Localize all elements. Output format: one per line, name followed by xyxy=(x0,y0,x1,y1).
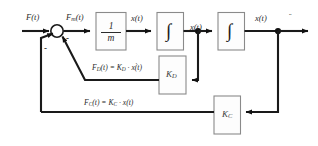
equation-spring-force: FC(t) = KC · x(t) xyxy=(84,99,133,108)
label-velocity: .x(t) xyxy=(190,23,318,32)
eq-damping-rhs: . · x(t) xyxy=(126,63,142,72)
label-net-force-suffix: (t) xyxy=(76,12,84,22)
label-velocity-base: x(t) xyxy=(190,22,202,32)
eq-damping-tail: · x(t) xyxy=(126,63,142,72)
label-acceleration-base: x(t) xyxy=(131,13,143,23)
label-plant-denominator: m xyxy=(108,33,115,43)
label-gain-kc-sub: C xyxy=(228,112,232,119)
integral-glyph-1: ∫ xyxy=(166,21,171,40)
wire-velocity-to-kd xyxy=(192,31,198,80)
sign-spring-minus: - xyxy=(44,44,47,53)
summing-junction-circle xyxy=(51,25,63,37)
label-acceleration-dots: .. xyxy=(289,10,292,17)
sign-damping-minus: - xyxy=(66,34,69,43)
label-input-force: F(t) xyxy=(26,13,39,22)
integral-glyph-2: ∫ xyxy=(227,21,232,40)
label-acceleration: ..x(t) xyxy=(131,14,318,23)
wire-kc-feedback-v xyxy=(41,34,53,113)
label-gain-kd-sub: D xyxy=(172,72,177,79)
label-plant-fraction: 1 m xyxy=(101,22,121,44)
eq-spring-tail: · x(t) xyxy=(117,98,133,107)
label-gain-kd: KD xyxy=(166,70,177,80)
label-position: x(t) xyxy=(255,14,267,23)
eq-damping-dots: . xyxy=(135,59,136,66)
equation-damping-force: FD(t) = KD. · x(t) xyxy=(92,64,142,73)
eq-spring-arg: (t) = K xyxy=(92,98,113,107)
label-gain-kc: KC xyxy=(222,110,232,120)
label-plant-numerator: 1 xyxy=(109,21,114,31)
wire-position-to-kc xyxy=(246,31,278,112)
eq-damping-arg: (t) = K xyxy=(101,63,122,72)
block-diagram-canvas: F(t) Fm(t) 1 m ..x(t) ∫ .x(t) ∫ x(t) KD … xyxy=(0,0,318,146)
label-net-force: Fm(t) xyxy=(66,13,84,22)
